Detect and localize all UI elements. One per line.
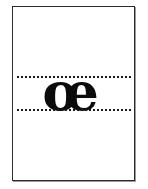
glyph-plate: œ bbox=[13, 7, 134, 180]
specimen-page: œ bbox=[0, 0, 148, 189]
glyph-oe-ligature: œ bbox=[13, 64, 134, 120]
specimen-frame: œ bbox=[12, 6, 135, 181]
guide-line-baseline bbox=[17, 109, 131, 111]
